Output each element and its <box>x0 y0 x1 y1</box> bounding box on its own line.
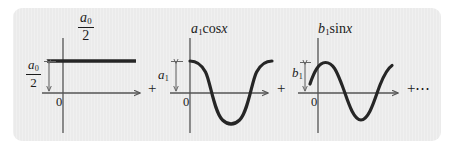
amplitude-symbol: b <box>292 65 299 80</box>
origin-label-panel-3: 0 <box>311 96 317 109</box>
panel-constant-term <box>42 38 140 133</box>
coefficient-a1: a <box>191 21 198 36</box>
amplitude-label-a1: a1 <box>158 68 169 83</box>
panel-sine-term <box>298 38 398 133</box>
amplitude-symbol: a <box>158 67 165 82</box>
fourier-series-figure: a0 2 a0 2 0 + a1cosx a1 0 + b1sinx b1 0 … <box>0 0 454 149</box>
panel-cosine-title: a1cosx <box>191 22 227 37</box>
function-sin: sin <box>330 21 346 36</box>
amplitude-label-a0: a0 2 <box>26 58 41 89</box>
plus-operator-2: + <box>277 81 285 96</box>
variable-x: x <box>221 21 227 36</box>
origin-label-panel-2: 0 <box>183 96 189 109</box>
amplitude-subscript: 1 <box>299 72 303 81</box>
fraction-denominator: 2 <box>30 75 37 89</box>
fraction-numerator: a0 <box>26 58 41 75</box>
fraction-a0-over-2: a0 2 <box>78 11 94 43</box>
panel-sine-title: b1sinx <box>318 22 352 37</box>
ellipsis: ⋯ <box>415 80 431 96</box>
sine-curve <box>310 63 392 121</box>
plus-operator-1: + <box>148 81 156 96</box>
fraction-a0-over-2-amplitude: a0 2 <box>26 58 41 89</box>
function-cos: cos <box>203 21 222 36</box>
variable-x: x <box>346 21 352 36</box>
amplitude-subscript: 1 <box>165 74 169 83</box>
fraction-denominator: 2 <box>82 28 89 43</box>
amplitude-label-b1: b1 <box>292 66 303 81</box>
panel-constant-title: a0 2 <box>78 11 94 43</box>
origin-label-panel-1: 0 <box>56 96 62 109</box>
panel-cosine-term <box>170 38 272 133</box>
fraction-numerator: a0 <box>78 11 94 28</box>
plus-operator-3-with-ellipsis: +⋯ <box>407 81 431 96</box>
coefficient-b1: b <box>318 21 325 36</box>
